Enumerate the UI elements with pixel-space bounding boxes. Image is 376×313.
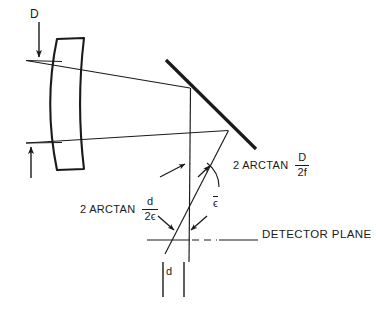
fraction-numerator-d: d xyxy=(145,196,155,208)
aperture-dimension-arrows xyxy=(31,22,39,178)
fraction-denominator-2f: 2f xyxy=(295,167,309,179)
slanted-reflected-ray xyxy=(165,131,229,255)
vertical-ray-pointer-arrow xyxy=(160,164,185,177)
arctan-words-left: 2 ARCTAN xyxy=(80,203,135,215)
fraction-denominator-2epsilon: 2ϵ xyxy=(142,211,158,223)
overline-bar xyxy=(213,196,218,197)
d-magnitude-label: d xyxy=(166,266,172,277)
arctan-words-right: 2 ARCTAN xyxy=(233,159,288,171)
fraction-numerator-D: D xyxy=(296,152,308,164)
meniscus-lens xyxy=(50,38,84,170)
detector-plane-label: DETECTOR PLANE xyxy=(262,229,372,241)
epsilon-symbol: ϵ xyxy=(213,197,218,209)
epsilon-bar-label: ϵ xyxy=(213,196,218,209)
field-angle-formula-right: 2 ARCTAN D 2f xyxy=(233,152,309,178)
fraction-d-over-2epsilon: d 2ϵ xyxy=(142,196,158,222)
epsilon-angle-arrows xyxy=(158,216,207,230)
optical-diagram-figure: D 2 ARCTAN D 2f 2 ARCTAN d 2ϵ ϵ DETECTOR… xyxy=(0,0,376,313)
aperture-reference-lines xyxy=(26,61,62,144)
field-angle-formula-left: 2 ARCTAN d 2ϵ xyxy=(80,196,158,222)
fold-mirror xyxy=(166,60,256,149)
overline-group: ϵ xyxy=(213,196,218,209)
diagram-canvas xyxy=(0,0,376,313)
aperture-diameter-label: D xyxy=(30,8,39,20)
fraction-d-over-2f: D 2f xyxy=(295,152,309,178)
lower-marginal-ray xyxy=(26,131,228,144)
vertical-reflected-ray xyxy=(189,88,191,262)
